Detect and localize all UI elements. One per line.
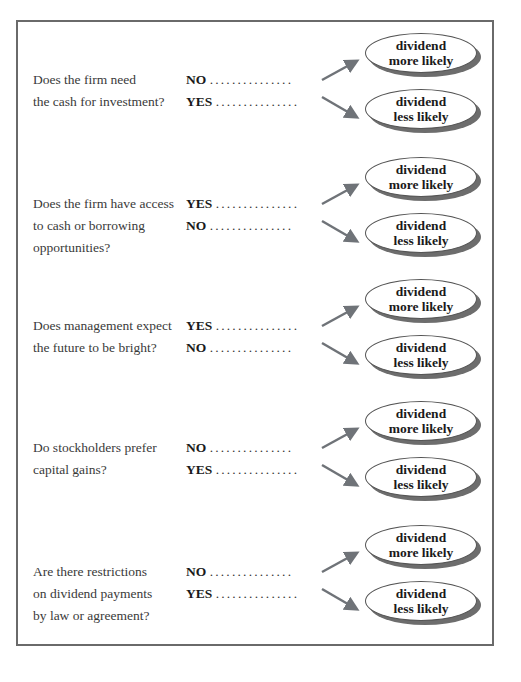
leader-dots: ............... bbox=[210, 340, 294, 355]
leader-dots: ............... bbox=[216, 462, 300, 477]
answer-label: YES bbox=[186, 586, 212, 601]
outcome-dividend-more-likely: dividendmore likely bbox=[365, 33, 483, 77]
outcome-text: dividend bbox=[396, 462, 446, 477]
question-text: Are there restrictions on dividend payme… bbox=[33, 561, 152, 627]
answer-top: NO ............... bbox=[186, 561, 316, 583]
answer-label: NO bbox=[186, 564, 206, 579]
outcome-text: more likely bbox=[389, 177, 454, 192]
answer-top: NO ............... bbox=[186, 437, 316, 459]
answer-label: YES bbox=[186, 94, 212, 109]
outcome-text: dividend bbox=[396, 38, 446, 53]
question-line: by law or agreement? bbox=[33, 605, 152, 627]
outcome-dividend-more-likely: dividendmore likely bbox=[365, 157, 483, 201]
branch-arrows-icon bbox=[320, 53, 364, 123]
question-line: the future to be bright? bbox=[33, 337, 172, 359]
outcome-text: more likely bbox=[389, 53, 454, 68]
outcome-dividend-less-likely: dividendless likely bbox=[365, 89, 483, 133]
answer-bottom: YES ............... bbox=[186, 583, 316, 605]
outcome-text: more likely bbox=[389, 421, 454, 436]
answer-label: NO bbox=[186, 440, 206, 455]
answer-bottom: YES ............... bbox=[186, 459, 316, 481]
outcome-text: dividend bbox=[396, 340, 446, 355]
branch-arrows-icon bbox=[320, 421, 364, 491]
outcome-dividend-less-likely: dividendless likely bbox=[365, 335, 483, 379]
outcome-dividend-more-likely: dividendmore likely bbox=[365, 279, 483, 323]
branch-arrows-icon bbox=[320, 177, 364, 247]
outcome-text: dividend bbox=[396, 586, 446, 601]
leader-dots: ............... bbox=[216, 586, 300, 601]
outcome-text: dividend bbox=[396, 218, 446, 233]
decision-row-future-bright: Does management expect the future to be … bbox=[0, 279, 521, 389]
outcome-dividend-less-likely: dividendless likely bbox=[365, 457, 483, 501]
answer-bottom: NO ............... bbox=[186, 215, 316, 237]
leader-dots: ............... bbox=[210, 72, 294, 87]
outcome-text: more likely bbox=[389, 545, 454, 560]
answer-label: NO bbox=[186, 72, 206, 87]
outcome-text: dividend bbox=[396, 284, 446, 299]
question-text: Do stockholders prefer capital gains? bbox=[33, 437, 157, 481]
answer-top: YES ............... bbox=[186, 193, 316, 215]
decision-row-restrictions: Are there restrictions on dividend payme… bbox=[0, 525, 521, 635]
question-line: the cash for investment? bbox=[33, 91, 165, 113]
outcome-dividend-less-likely: dividendless likely bbox=[365, 213, 483, 257]
branch-arrows-icon bbox=[320, 545, 364, 615]
outcome-dividend-less-likely: dividendless likely bbox=[365, 581, 483, 625]
question-line: to cash or borrowing bbox=[33, 215, 174, 237]
outcome-text: less likely bbox=[393, 355, 448, 370]
leader-dots: ............... bbox=[216, 196, 300, 211]
answer-label: NO bbox=[186, 218, 206, 233]
outcome-dividend-more-likely: dividendmore likely bbox=[365, 525, 483, 569]
question-text: Does management expect the future to be … bbox=[33, 315, 172, 359]
answer-top: YES ............... bbox=[186, 315, 316, 337]
answer-label: NO bbox=[186, 340, 206, 355]
question-line: on dividend payments bbox=[33, 583, 152, 605]
outcome-text: less likely bbox=[393, 477, 448, 492]
decision-row-cash-for-investment: Does the firm need the cash for investme… bbox=[0, 33, 521, 143]
answer-label: YES bbox=[186, 462, 212, 477]
question-line: opportunities? bbox=[33, 237, 174, 259]
question-line: Does management expect bbox=[33, 315, 172, 337]
question-line: Do stockholders prefer bbox=[33, 437, 157, 459]
leader-dots: ............... bbox=[210, 564, 294, 579]
outcome-text: less likely bbox=[393, 233, 448, 248]
answer-label: YES bbox=[186, 196, 212, 211]
outcome-text: less likely bbox=[393, 601, 448, 616]
question-line: Does the firm need bbox=[33, 69, 165, 91]
answer-label: YES bbox=[186, 318, 212, 333]
answer-bottom: YES ............... bbox=[186, 91, 316, 113]
outcome-text: dividend bbox=[396, 162, 446, 177]
outcome-text: dividend bbox=[396, 530, 446, 545]
outcome-text: more likely bbox=[389, 299, 454, 314]
question-text: Does the firm have access to cash or bor… bbox=[33, 193, 174, 259]
outcome-text: dividend bbox=[396, 94, 446, 109]
leader-dots: ............... bbox=[210, 440, 294, 455]
answer-top: NO ............... bbox=[186, 69, 316, 91]
leader-dots: ............... bbox=[210, 218, 294, 233]
outcome-text: dividend bbox=[396, 406, 446, 421]
decision-row-access-to-cash: Does the firm have access to cash or bor… bbox=[0, 157, 521, 267]
leader-dots: ............... bbox=[216, 94, 300, 109]
question-line: capital gains? bbox=[33, 459, 157, 481]
question-line: Are there restrictions bbox=[33, 561, 152, 583]
outcome-text: less likely bbox=[393, 109, 448, 124]
branch-arrows-icon bbox=[320, 299, 364, 369]
outcome-dividend-more-likely: dividendmore likely bbox=[365, 401, 483, 445]
question-text: Does the firm need the cash for investme… bbox=[33, 69, 165, 113]
decision-row-capital-gains: Do stockholders prefer capital gains? NO… bbox=[0, 401, 521, 511]
leader-dots: ............... bbox=[216, 318, 300, 333]
question-line: Does the firm have access bbox=[33, 193, 174, 215]
answer-bottom: NO ............... bbox=[186, 337, 316, 359]
